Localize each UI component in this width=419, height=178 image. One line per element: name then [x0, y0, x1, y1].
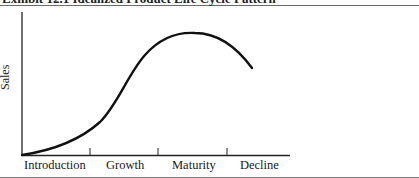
bottom-rule — [0, 177, 419, 178]
stage-label-maturity: Maturity — [172, 158, 216, 173]
stage-label-introduction: Introduction — [24, 158, 86, 173]
sales-curve — [22, 33, 252, 155]
stage-label-growth: Growth — [106, 158, 144, 173]
y-axis-label: Sales — [0, 65, 13, 90]
chart-plot — [0, 0, 419, 178]
stage-label-decline: Decline — [240, 158, 279, 173]
